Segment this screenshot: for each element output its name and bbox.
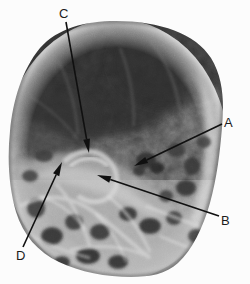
radiograph-figure: C A B D [0, 0, 250, 284]
radiograph-image [0, 0, 250, 284]
radiograph-canvas [0, 0, 250, 284]
